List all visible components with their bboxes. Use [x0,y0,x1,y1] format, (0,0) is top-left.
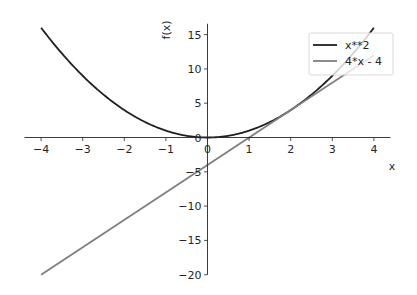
legend-label-linear: 4*x - 4 [345,55,382,68]
y-tick-label: −15 [178,234,201,247]
y-tick-label: 5 [195,97,202,110]
x-tick-label: 0 [204,143,211,156]
x-axis-ticks: −4−3−2−101234 [33,138,377,156]
x-tick-label: −4 [33,143,49,156]
x-tick-label: 4 [370,143,377,156]
x-tick-label: −3 [75,143,91,156]
x-tick-label: −2 [116,143,132,156]
x-tick-label: −1 [158,143,174,156]
y-tick-label: 15 [188,29,202,42]
y-axis-label: f(x) [160,21,173,40]
y-tick-label: −5 [185,166,201,179]
legend: x**2 4*x - 4 [309,33,393,75]
x-tick-label: 3 [329,143,336,156]
legend-label-x-squared: x**2 [345,39,370,52]
chart-canvas: −4−3−2−101234 −20−15−10−5051015 x f(x) x… [0,0,417,295]
y-tick-label: −10 [178,200,201,213]
y-tick-label: 0 [195,132,202,145]
y-tick-label: −20 [178,269,201,282]
x-tick-label: 1 [246,143,253,156]
x-axis-label: x [389,160,396,173]
x-tick-label: 2 [287,143,294,156]
y-tick-label: 10 [188,63,202,76]
